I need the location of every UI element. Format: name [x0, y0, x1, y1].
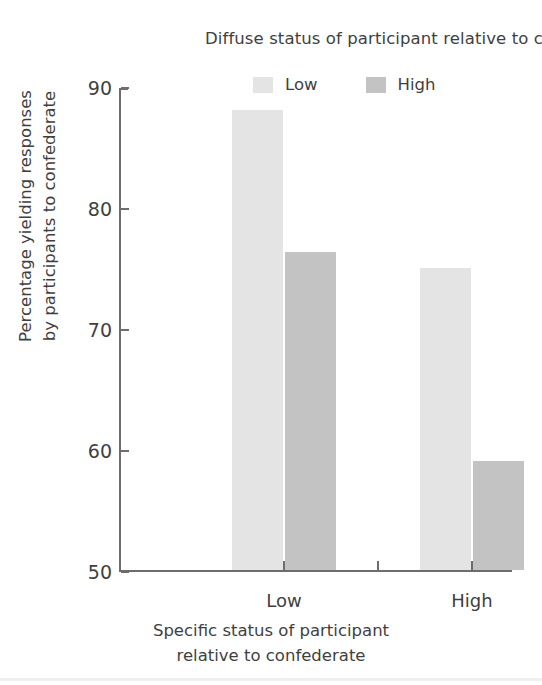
y-axis-tick — [121, 450, 129, 452]
y-axis-title: Percentage yielding responses by partici… — [14, 66, 62, 366]
x-axis-tick — [283, 561, 285, 570]
y-axis-tick-label: 50 — [88, 561, 112, 583]
y-axis-tick — [121, 329, 129, 331]
y-axis-tick-label: 90 — [88, 77, 112, 99]
x-axis-tick-middle — [377, 561, 379, 570]
y-axis-tick — [121, 87, 129, 89]
x-axis-line — [119, 570, 512, 572]
bar-chart-figure: Diffuse status of participant relative t… — [0, 0, 542, 685]
bar-high-high — [473, 461, 524, 570]
y-axis-tick-labels: 5060708090 — [70, 88, 112, 572]
bar-high-low — [420, 268, 471, 571]
x-axis-tick-label: High — [451, 590, 492, 611]
bar-low-high — [285, 252, 336, 570]
page-scan-artifact — [0, 678, 542, 681]
y-axis-tick — [121, 208, 129, 210]
bar-low-low — [232, 110, 283, 570]
x-axis-title: Specific status of participant relative … — [0, 618, 542, 668]
y-axis-tick-label: 80 — [88, 198, 112, 220]
y-axis-tick-label: 60 — [88, 440, 112, 462]
legend-title: Diffuse status of participant relative t… — [205, 28, 535, 50]
x-axis-tick-label: Low — [266, 590, 301, 611]
chart-legend: Diffuse status of participant relative t… — [205, 28, 535, 50]
x-axis-tick — [471, 561, 473, 570]
plot-area — [119, 88, 512, 572]
y-axis-tick-label: 70 — [88, 319, 112, 341]
y-axis-tick — [121, 571, 129, 573]
